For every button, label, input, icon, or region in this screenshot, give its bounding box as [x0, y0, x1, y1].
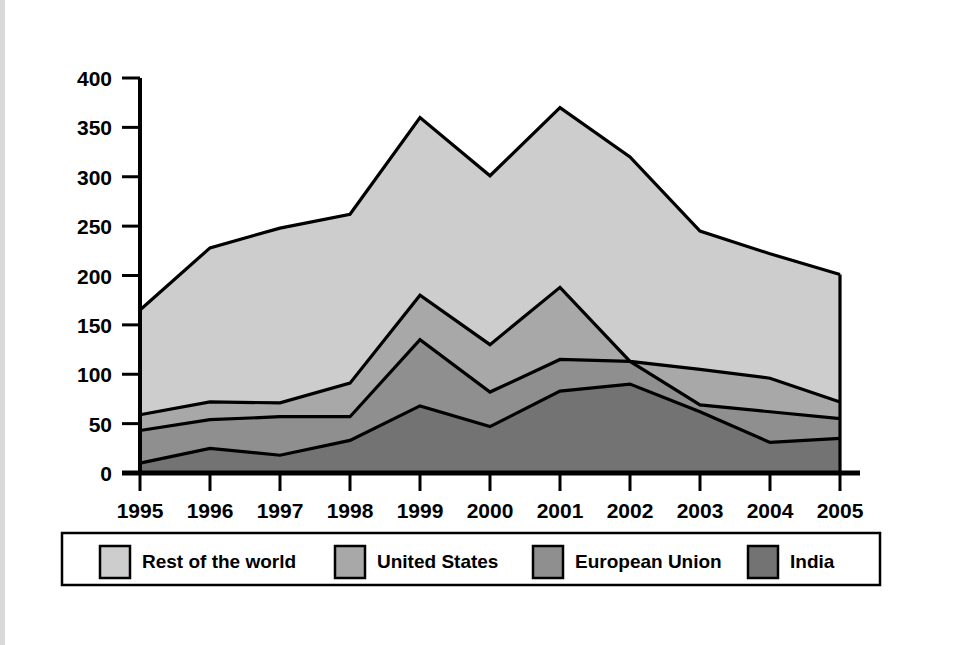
x-tick-label-2002: 2002: [607, 499, 654, 522]
legend-label: United States: [377, 551, 498, 572]
legend-label: India: [790, 551, 835, 572]
y-axis-ticks: [122, 78, 140, 473]
x-tick-label-1998: 1998: [327, 499, 374, 522]
x-tick-label-2004: 2004: [747, 499, 794, 522]
legend-item-european-union[interactable]: European Union: [533, 546, 722, 578]
y-tick-label-400: 400: [77, 67, 112, 90]
legend-item-rest-of-the-world[interactable]: Rest of the world: [100, 546, 296, 578]
x-tick-label-1999: 1999: [397, 499, 444, 522]
legend-swatch-icon: [748, 546, 778, 578]
chart-figure: 050100150200250300350400 199519961997199…: [0, 0, 953, 645]
legend-label: Rest of the world: [142, 551, 296, 572]
y-tick-label-100: 100: [77, 363, 112, 386]
legend-item-united-states[interactable]: United States: [335, 546, 498, 578]
legend-swatch-icon: [335, 546, 365, 578]
x-tick-label-2000: 2000: [467, 499, 514, 522]
x-tick-label-2005: 2005: [817, 499, 864, 522]
y-tick-label-150: 150: [77, 314, 112, 337]
legend-items: Rest of the worldUnited StatesEuropean U…: [100, 546, 835, 578]
legend-label: European Union: [575, 551, 722, 572]
y-tick-label-0: 0: [100, 462, 112, 485]
x-tick-label-1996: 1996: [187, 499, 234, 522]
y-tick-label-200: 200: [77, 265, 112, 288]
y-tick-label-300: 300: [77, 166, 112, 189]
x-tick-label-1997: 1997: [257, 499, 304, 522]
x-tick-label-1995: 1995: [117, 499, 164, 522]
stacked-area-chart: 050100150200250300350400 199519961997199…: [0, 0, 953, 645]
y-tick-label-50: 50: [89, 413, 112, 436]
plot-area-wrapper: 050100150200250300350400 199519961997199…: [0, 0, 953, 645]
x-axis-ticks: [140, 473, 840, 491]
x-axis-tick-labels: 1995199619971998199920002001200220032004…: [117, 499, 864, 522]
x-tick-label-2003: 2003: [677, 499, 724, 522]
x-tick-label-2001: 2001: [537, 499, 584, 522]
y-axis-tick-labels: 050100150200250300350400: [77, 67, 112, 485]
legend-swatch-icon: [533, 546, 563, 578]
y-tick-label-250: 250: [77, 215, 112, 238]
chart-legend: Rest of the worldUnited StatesEuropean U…: [62, 533, 880, 585]
legend-item-india[interactable]: India: [748, 546, 835, 578]
y-tick-label-350: 350: [77, 116, 112, 139]
legend-swatch-icon: [100, 546, 130, 578]
